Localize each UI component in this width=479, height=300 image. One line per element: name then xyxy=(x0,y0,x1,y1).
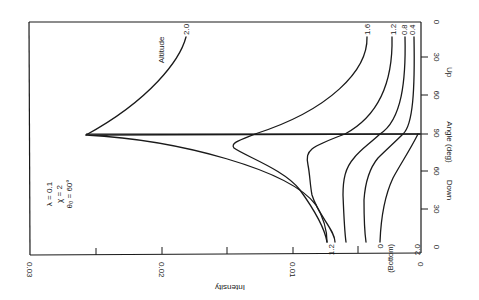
curve-label-1-2: 1.2 xyxy=(389,23,398,35)
param-lambda: λ = 0.1 xyxy=(45,181,54,206)
curve-label-down-0: 0 xyxy=(376,243,385,248)
curve-label-2-0: 2.0 xyxy=(182,23,191,35)
curve-altitude-1-6 xyxy=(233,37,367,242)
curve-altitude-2-0-up xyxy=(86,37,186,135)
plot-frame xyxy=(29,22,421,255)
curve-labels-down: 1.2 0 (Bottom) 2.0 xyxy=(327,243,422,272)
curve-altitude-2-0-down xyxy=(86,134,420,242)
down-label: Down xyxy=(445,180,454,200)
tick-down-0: 0 xyxy=(432,245,441,250)
tick-up-60: 60 xyxy=(432,91,441,100)
tick-intensity-0-02: 0.02 xyxy=(157,262,166,278)
curve-label-down-1-2: 1.2 xyxy=(327,243,336,255)
curve-labels-up: Altitude 2.0 1.6 1.2 0.8 0.4 xyxy=(157,23,417,63)
curve-label-0-4: 0.4 xyxy=(408,25,417,35)
curve-altitude-0-4 xyxy=(364,37,414,242)
tick-down-30: 30 xyxy=(432,205,441,214)
tick-intensity-0-03: 0.03 xyxy=(25,262,34,278)
param-theta: θ₀ = 60° xyxy=(65,180,74,209)
tick-down-60: 60 xyxy=(432,167,441,176)
tick-up-0: 0 xyxy=(432,20,441,25)
altitude-legend-title: Altitude xyxy=(157,36,166,63)
intensity-angle-chart: 0 30 60 90 60 30 0 Up Angle (deg) Down 0… xyxy=(0,0,479,300)
tick-up-30: 30 xyxy=(432,53,441,62)
tick-90: 90 xyxy=(432,129,441,138)
param-chi: χ = 2 xyxy=(55,185,64,203)
curve-label-1-6: 1.6 xyxy=(363,23,372,35)
angle-axis-ticks xyxy=(421,57,428,209)
intensity-tick-labels: 0.03 0.02 0.01 0 xyxy=(25,262,425,278)
tick-intensity-0: 0 xyxy=(416,262,425,267)
angle-tick-labels: 0 30 60 90 60 30 0 xyxy=(432,20,441,250)
curve-altitude-0-8 xyxy=(343,37,405,242)
tick-intensity-0-01: 0.01 xyxy=(288,262,297,278)
parameters-block: λ = 0.1 χ = 2 θ₀ = 60° xyxy=(45,180,74,209)
up-label: Up xyxy=(445,67,454,78)
curve-altitude-1-2 xyxy=(307,37,392,242)
intensity-axis-label: Intensity xyxy=(215,283,245,292)
curves xyxy=(86,37,420,242)
bottom-label: (Bottom) xyxy=(386,244,395,273)
angle-axis-label: Angle (deg) xyxy=(445,121,454,163)
curve-label-down-2-0: 2.0 xyxy=(413,243,422,255)
